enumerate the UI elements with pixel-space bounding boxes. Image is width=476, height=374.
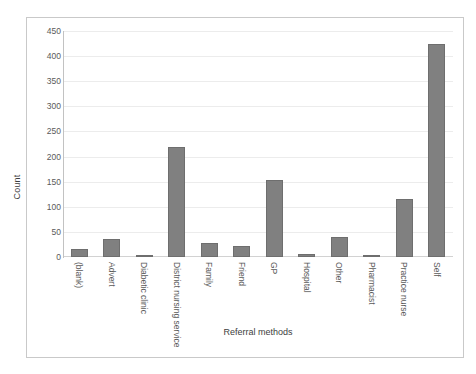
x-axis-tick-label-slot: Other [323, 259, 356, 329]
bar-slot [226, 31, 259, 257]
bar[interactable] [136, 255, 153, 257]
x-axis-tick-label: Self [432, 262, 442, 277]
bar[interactable] [396, 199, 413, 257]
y-axis-title: Count [6, 0, 28, 374]
bar[interactable] [103, 239, 120, 257]
bar-slot [193, 31, 226, 257]
x-axis-tick-label-slot: Self [421, 259, 454, 329]
bar-slot [421, 31, 454, 257]
y-axis-tick-label: 200 [47, 152, 61, 162]
y-axis-title-label: Count [12, 174, 22, 199]
bar-slot [258, 31, 291, 257]
x-axis-tick-label-slot: Advert [96, 259, 129, 329]
bar[interactable] [201, 243, 218, 257]
y-axis-tick-label: 150 [47, 177, 61, 187]
bar-slot [323, 31, 356, 257]
x-axis-tick-label-slot: Hospital [291, 259, 324, 329]
bar-slot [356, 31, 389, 257]
bar-slot [63, 31, 96, 257]
x-axis-tick-label: (blank) [74, 262, 84, 288]
x-axis-tick-label-slot: Friend [226, 259, 259, 329]
x-axis-tick-label: Family [204, 262, 214, 287]
y-axis-tick-label: 400 [47, 51, 61, 61]
x-axis-tick-label-slot: Family [193, 259, 226, 329]
y-axis-tick-label: 50 [52, 227, 61, 237]
x-axis-tick-label: Practice nurse [399, 262, 409, 316]
bar[interactable] [363, 255, 380, 257]
x-axis-tick-label-slot: GP [258, 259, 291, 329]
y-axis-tick-labels: 050100150200250300350400450 [33, 31, 61, 257]
x-axis-tick-label-slot: Diabetic clinic [128, 259, 161, 329]
y-axis-tick-label: 0 [56, 252, 61, 262]
x-axis-tick-label-slot: Pharmacist [356, 259, 389, 329]
bar-slot [291, 31, 324, 257]
x-axis-tick-label-slot: (blank) [63, 259, 96, 329]
y-axis-tick-label: 100 [47, 202, 61, 212]
x-axis-tick-label: GP [269, 262, 279, 274]
bar[interactable] [428, 44, 445, 257]
bar-slot [128, 31, 161, 257]
y-axis-tick-label: 250 [47, 126, 61, 136]
bar-slot [161, 31, 194, 257]
x-axis-tick-label-slot: Practice nurse [388, 259, 421, 329]
x-axis-title: Referral methods [63, 327, 453, 337]
bar[interactable] [168, 147, 185, 257]
x-axis-tick-labels: (blank)AdvertDiabetic clinicDistrict nur… [63, 259, 453, 329]
bar[interactable] [266, 180, 283, 257]
x-axis-tick-label-slot: District nursing service [161, 259, 194, 329]
bar-series [63, 31, 453, 257]
x-axis-tick-label: Pharmacist [367, 262, 377, 305]
bar[interactable] [331, 237, 348, 257]
x-axis-tick-label: Hospital [302, 262, 312, 293]
bar[interactable] [298, 254, 315, 257]
bar-chart-figure: Count 050100150200250300350400450 (blank… [0, 0, 476, 374]
x-axis-tick-label: Other [334, 262, 344, 283]
bar[interactable] [71, 249, 88, 257]
y-axis-tick-label: 350 [47, 76, 61, 86]
x-axis-tick-label: Advert [107, 262, 117, 287]
bar-slot [388, 31, 421, 257]
x-axis-tick-label: Friend [237, 262, 247, 286]
x-axis-tick-label: Diabetic clinic [139, 262, 149, 314]
bar[interactable] [233, 246, 250, 257]
bar-slot [96, 31, 129, 257]
y-axis-tick-label: 450 [47, 26, 61, 36]
y-axis-tick-label: 300 [47, 101, 61, 111]
